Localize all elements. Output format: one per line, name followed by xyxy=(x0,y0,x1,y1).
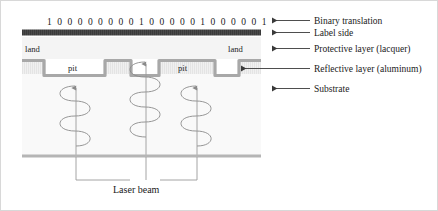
callout-label-reflective-layer: Reflective layer (aluminum) xyxy=(314,64,422,75)
pit-label-left: pit xyxy=(68,63,78,73)
substrate-body xyxy=(22,74,261,156)
land-label-left: land xyxy=(25,44,40,54)
label-side-bar xyxy=(22,30,261,36)
callout-label-binary-translation: Binary translation xyxy=(314,16,383,26)
land-label-right: land xyxy=(228,44,243,54)
substrate-bottom-line xyxy=(22,155,261,158)
callout-label-label-side: Label side xyxy=(314,28,353,38)
cd-cross-section-figure: 1 0 0 0 0 0 0 0 0 1 0 0 0 0 0 1 0 0 0 0 … xyxy=(0,0,438,211)
laser-beam-label: Laser beam xyxy=(113,184,160,195)
binary-translation-text: 1 0 0 0 0 0 0 0 0 1 0 0 0 0 0 1 0 0 0 0 … xyxy=(47,17,268,27)
protective-layer-band xyxy=(22,37,261,59)
callout-label-protective-layer: Protective layer (lacquer) xyxy=(314,44,411,55)
callout-label-substrate: Substrate xyxy=(314,84,349,94)
pit-label-right: pit xyxy=(178,63,188,73)
